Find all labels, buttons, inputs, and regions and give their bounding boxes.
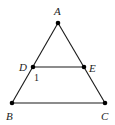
label-D: D [18, 61, 27, 73]
point-E [82, 65, 87, 70]
point-C [103, 101, 108, 106]
label-C: C [101, 110, 109, 122]
label-B: B [6, 110, 13, 122]
geometry-figure: A B C D E 1 [0, 0, 115, 125]
label-A: A [53, 5, 61, 17]
point-A [56, 21, 61, 26]
label-E: E [88, 62, 96, 74]
segment-AC [58, 23, 105, 103]
point-D [31, 65, 36, 70]
point-B [10, 101, 15, 106]
angle-label-1: 1 [34, 72, 39, 83]
